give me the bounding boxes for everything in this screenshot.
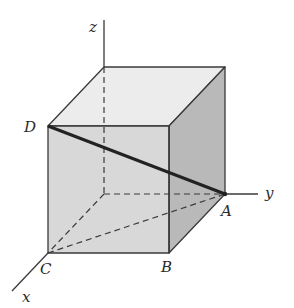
point-b-label: B bbox=[160, 258, 172, 276]
point-a-dot bbox=[223, 192, 227, 196]
point-d-label: D bbox=[23, 118, 36, 136]
point-c-label: C bbox=[40, 260, 52, 278]
y-axis-label: y bbox=[264, 184, 274, 202]
point-a-label: A bbox=[219, 202, 232, 220]
x-axis-label: x bbox=[22, 288, 31, 306]
cube-diagram: z y x D A B C bbox=[0, 0, 294, 308]
z-axis-label: z bbox=[88, 18, 97, 36]
